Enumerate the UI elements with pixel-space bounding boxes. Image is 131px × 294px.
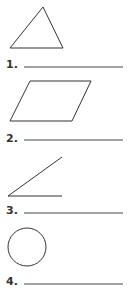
item-number-1: 1.: [6, 59, 18, 71]
item-number-2: 2.: [6, 133, 18, 145]
triangle-icon: [10, 7, 63, 48]
circle-icon: [8, 228, 46, 266]
item-number-4: 4.: [6, 276, 18, 288]
parallelogram-icon: [10, 81, 91, 121]
worksheet-figures: [0, 0, 131, 294]
angle-icon: [8, 157, 62, 196]
item-number-3: 3.: [6, 205, 18, 217]
